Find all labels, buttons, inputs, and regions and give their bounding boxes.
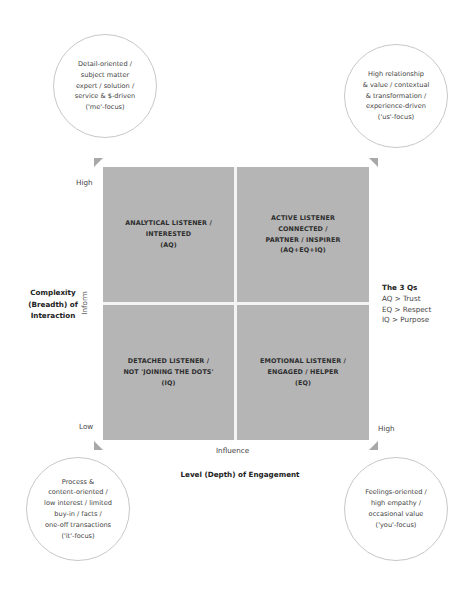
quadrant-line: (IQ)	[123, 378, 213, 389]
circle-you-focus: Feelings-oriented / high empathy / occas…	[344, 457, 448, 561]
circle-line: one-off transactions	[44, 520, 112, 531]
quadrant-active-listener: ACTIVE LISTENER CONNECTED / PARTNER / IN…	[237, 167, 369, 302]
y-axis-title-line: Interaction	[20, 310, 86, 322]
three-qs-legend: The 3 Qs AQ > Trust EQ > Respect IQ > Pu…	[382, 283, 431, 326]
circle-line: & transformation /	[363, 91, 430, 102]
quadrant-line: PARTNER / INSPIRER	[266, 235, 341, 246]
circle-line: ('it'-focus)	[44, 531, 112, 542]
quadrant-analytical-listener: ANALYTICAL LISTENER / INTERESTED (AQ)	[103, 167, 234, 302]
circle-line: Process &	[44, 477, 112, 488]
circle-line: content-oriented /	[44, 487, 112, 498]
circle-line: expert / solution /	[75, 81, 135, 92]
circle-line: Detail-oriented /	[75, 59, 135, 70]
y-axis-high-label: High	[76, 178, 93, 187]
circle-line: low interest / limited	[44, 498, 112, 509]
circle-line: experience-driven	[363, 101, 430, 112]
quadrant-line: INTERESTED	[125, 229, 212, 240]
x-axis-title: Level (Depth) of Engagement	[140, 469, 340, 481]
triangle-bottom-left-icon	[94, 441, 103, 450]
y-axis-title-line: (Breadth) of	[20, 299, 86, 311]
three-qs-title: The 3 Qs	[382, 283, 431, 294]
circle-line: ('you'-focus)	[365, 520, 426, 531]
quadrant-emotional-listener: EMOTIONAL LISTENER / ENGAGED / HELPER (E…	[237, 305, 369, 440]
circle-line: service & $-driven	[75, 91, 135, 102]
horizontal-divider	[103, 302, 369, 305]
circle-line: ('us'-focus)	[363, 112, 430, 123]
circle-line: ('me'-focus)	[75, 102, 135, 113]
circle-line: High relationship	[363, 69, 430, 80]
triangle-bottom-right-icon	[369, 441, 378, 450]
circle-line: occasional value	[365, 509, 426, 520]
circle-us-focus: High relationship & value / contextual &…	[344, 44, 448, 148]
circle-line: Feelings-oriented /	[365, 487, 426, 498]
quadrant-line: ACTIVE LISTENER	[266, 213, 341, 224]
quadrant-line: NOT 'JOINING THE DOTS'	[123, 367, 213, 378]
quadrant-detached-listener: DETACHED LISTENER / NOT 'JOINING THE DOT…	[103, 305, 234, 440]
three-qs-item: AQ > Trust	[382, 294, 431, 305]
y-axis-low-label: Low	[79, 422, 93, 431]
quadrant-line: CONNECTED /	[266, 224, 341, 235]
triangle-top-left-icon	[94, 158, 103, 167]
quadrant-line: DETACHED LISTENER /	[123, 356, 213, 367]
quadrant-line: (EQ)	[260, 378, 346, 389]
circle-line: buy-in / facts /	[44, 509, 112, 520]
quadrant-line: (AQ+EQ+IQ)	[266, 245, 341, 256]
circle-it-focus: Process & content-oriented / low interes…	[26, 457, 130, 561]
y-axis-title: Complexity (Breadth) of Interaction	[20, 287, 86, 322]
quadrant-line: ANALYTICAL LISTENER /	[125, 218, 212, 229]
three-qs-item: EQ > Respect	[382, 305, 431, 316]
circle-line: & value / contextual	[363, 80, 430, 91]
three-qs-item: IQ > Purpose	[382, 315, 431, 326]
circle-line: high empathy /	[365, 498, 426, 509]
triangle-top-right-icon	[369, 158, 378, 167]
quadrant-line: EMOTIONAL LISTENER /	[260, 356, 346, 367]
quadrant-line: (AQ)	[125, 240, 212, 251]
x-axis-mid-label: Influence	[216, 446, 249, 455]
quadrant-grid: ANALYTICAL LISTENER / INTERESTED (AQ) AC…	[103, 167, 369, 440]
x-axis-high-label: High	[378, 424, 395, 433]
circle-me-focus: Detail-oriented / subject matter expert …	[53, 34, 157, 138]
circle-line: subject matter	[75, 70, 135, 81]
y-axis-title-line: Complexity	[20, 287, 86, 299]
quadrant-line: ENGAGED / HELPER	[260, 367, 346, 378]
